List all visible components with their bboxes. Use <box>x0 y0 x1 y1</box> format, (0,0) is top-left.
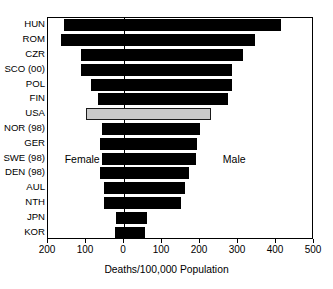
x-tick <box>123 239 124 243</box>
bar-row <box>48 137 312 151</box>
y-axis-label-swe-98: SWE (98) <box>0 153 45 163</box>
bar-row <box>48 92 312 106</box>
y-axis-label-usa: USA <box>0 108 45 118</box>
x-tick <box>199 239 200 243</box>
x-tick <box>161 239 162 243</box>
bar-row <box>48 33 312 47</box>
bar-den-98 <box>100 167 189 179</box>
x-tick <box>47 239 48 243</box>
bar-nor-98 <box>102 123 200 135</box>
x-tick <box>85 239 86 243</box>
x-tick-label: 200 <box>39 244 56 256</box>
plot-area: FemaleMale <box>47 17 313 239</box>
y-axis-label-nor-98: NOR (98) <box>0 123 45 133</box>
bar-swe-98 <box>102 153 196 165</box>
bar-hun <box>64 19 281 31</box>
bar-row <box>48 107 312 121</box>
bar-row <box>48 18 312 32</box>
bar-row <box>48 196 312 210</box>
bar-row <box>48 226 312 240</box>
bar-row <box>48 63 312 77</box>
x-tick-label: 100 <box>153 244 170 256</box>
x-tick-label: 300 <box>229 244 246 256</box>
bar-nth <box>104 197 181 209</box>
y-axis-label-den-98: DEN (98) <box>0 167 45 177</box>
y-axis-label-fin: FIN <box>0 93 45 103</box>
bar-row <box>48 122 312 136</box>
x-axis-tick-labels: 2001000100200300400500 <box>0 244 333 258</box>
bar-row <box>48 78 312 92</box>
bar-kor <box>115 227 145 239</box>
bar-aul <box>104 182 185 194</box>
bar-ger <box>100 138 197 150</box>
y-axis-category-labels: HUNROMCZRSCO (00)POLFINUSANOR (98)GERSWE… <box>0 17 45 239</box>
x-tick-label: 200 <box>191 244 208 256</box>
y-axis-label-sco-00: SCO (00) <box>0 64 45 74</box>
x-tick <box>275 239 276 243</box>
annotation-male: Male <box>223 153 246 165</box>
x-tick <box>237 239 238 243</box>
y-axis-label-czr: CZR <box>0 49 45 59</box>
x-axis-title: Deaths/100,000 Population <box>0 264 333 276</box>
x-tick-label: 100 <box>77 244 94 256</box>
y-axis-label-jpn: JPN <box>0 212 45 222</box>
bar-jpn <box>116 212 147 224</box>
bar-czr <box>81 49 243 61</box>
bar-sco-00 <box>81 64 231 76</box>
bar-fin <box>98 93 228 105</box>
x-tick-label: 0 <box>120 244 126 256</box>
annotation-female: Female <box>65 153 100 165</box>
y-axis-label-rom: ROM <box>0 34 45 44</box>
y-axis-label-kor: KOR <box>0 227 45 237</box>
bar-row <box>48 166 312 180</box>
x-tick-label: 400 <box>267 244 284 256</box>
bar-row <box>48 181 312 195</box>
x-tick-label: 500 <box>305 244 322 256</box>
y-axis-label-pol: POL <box>0 79 45 89</box>
bar-row <box>48 48 312 62</box>
y-axis-label-aul: AUL <box>0 182 45 192</box>
bar-row <box>48 211 312 225</box>
y-axis-label-nth: NTH <box>0 197 45 207</box>
bar-usa <box>86 108 211 120</box>
y-axis-label-ger: GER <box>0 138 45 148</box>
x-tick <box>313 239 314 243</box>
bar-pol <box>91 79 233 91</box>
y-axis-label-hun: HUN <box>0 19 45 29</box>
bar-rom <box>61 34 255 46</box>
chart-figure: HUNROMCZRSCO (00)POLFINUSANOR (98)GERSWE… <box>0 0 333 289</box>
